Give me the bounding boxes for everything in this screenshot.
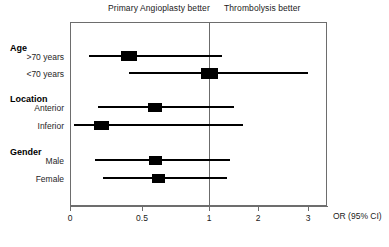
confidence-interval-line bbox=[103, 177, 227, 179]
confidence-interval-line bbox=[89, 55, 222, 57]
x-axis-tick bbox=[308, 206, 309, 211]
row-label: Anterior bbox=[0, 103, 64, 113]
right-direction-label: Thrombolysis better bbox=[224, 3, 301, 13]
x-axis-tick-label: 2 bbox=[256, 213, 261, 223]
x-axis-title: OR (95% CI) bbox=[333, 211, 382, 221]
x-axis-tick bbox=[209, 206, 210, 211]
point-estimate-marker bbox=[201, 68, 218, 79]
point-estimate-marker bbox=[94, 121, 109, 130]
x-axis-tick bbox=[142, 206, 143, 211]
row-label: <70 years bbox=[0, 69, 64, 79]
point-estimate-marker bbox=[121, 51, 137, 61]
x-axis-tick-label: 0.5 bbox=[136, 213, 148, 223]
x-axis-tick bbox=[70, 206, 71, 211]
row-label: Female bbox=[0, 174, 64, 184]
row-label: Inferior bbox=[0, 121, 64, 131]
x-axis-tick-label: 0 bbox=[68, 213, 73, 223]
confidence-interval-line bbox=[98, 106, 234, 108]
x-axis-tick-label: 1 bbox=[207, 213, 212, 223]
x-axis-tick-label: 3 bbox=[306, 213, 311, 223]
point-estimate-marker bbox=[149, 156, 162, 165]
forest-plot-figure: Primary Angioplasty better Thrombolysis … bbox=[0, 0, 389, 247]
point-estimate-marker bbox=[148, 103, 162, 112]
point-estimate-marker bbox=[152, 174, 165, 183]
row-label: Male bbox=[0, 156, 64, 166]
left-direction-label: Primary Angioplasty better bbox=[108, 3, 210, 13]
row-label: >70 years bbox=[0, 52, 64, 62]
confidence-interval-line bbox=[129, 72, 308, 74]
confidence-interval-line bbox=[95, 159, 230, 161]
x-axis-line bbox=[70, 206, 328, 207]
x-axis-tick bbox=[258, 206, 259, 211]
